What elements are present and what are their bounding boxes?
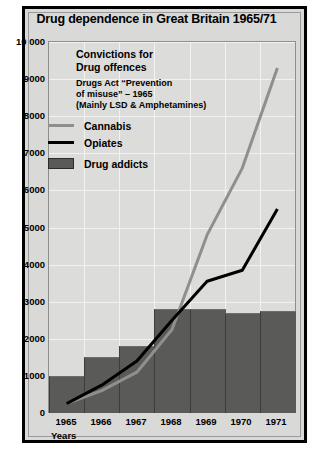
y-axis-tick-label: 3000: [1, 296, 45, 307]
x-axis-title: Years: [51, 430, 76, 441]
x-axis-tick-label: 1968: [160, 416, 181, 427]
y-axis-tick-label: 6000: [1, 184, 45, 195]
y-axis-tick-label: 9000: [1, 73, 45, 84]
y-axis-tick-label: 0: [1, 407, 45, 418]
x-axis-tick-label: 1969: [195, 416, 216, 427]
x-axis-tick-label: 1970: [230, 416, 251, 427]
y-axis-tick-label: 2000: [1, 333, 45, 344]
line-series-opiates: [67, 209, 278, 404]
chart-figure: Drug dependence in Great Britain 1965/71…: [0, 0, 313, 467]
y-axis: 010002000300040005000600070008000900010 …: [0, 41, 45, 412]
line-series-cannabis: [67, 68, 278, 404]
y-axis-tick-label: 5000: [1, 222, 45, 233]
plot-area: [48, 41, 296, 413]
x-axis-tick-label: 1965: [55, 416, 76, 427]
y-axis-tick-label: 10 000: [1, 36, 45, 47]
y-axis-tick-label: 1000: [1, 370, 45, 381]
y-axis-tick-label: 4000: [1, 259, 45, 270]
x-axis-tick-label: 1967: [125, 416, 146, 427]
series-layer: [49, 42, 295, 413]
y-axis-tick-label: 7000: [1, 147, 45, 158]
x-axis-tick-label: 1971: [265, 416, 286, 427]
x-axis: 1965196619671968196919701971: [48, 416, 294, 430]
y-axis-tick-label: 8000: [1, 110, 45, 121]
x-axis-tick-label: 1966: [90, 416, 111, 427]
chart-title: Drug dependence in Great Britain 1965/71: [0, 12, 313, 26]
